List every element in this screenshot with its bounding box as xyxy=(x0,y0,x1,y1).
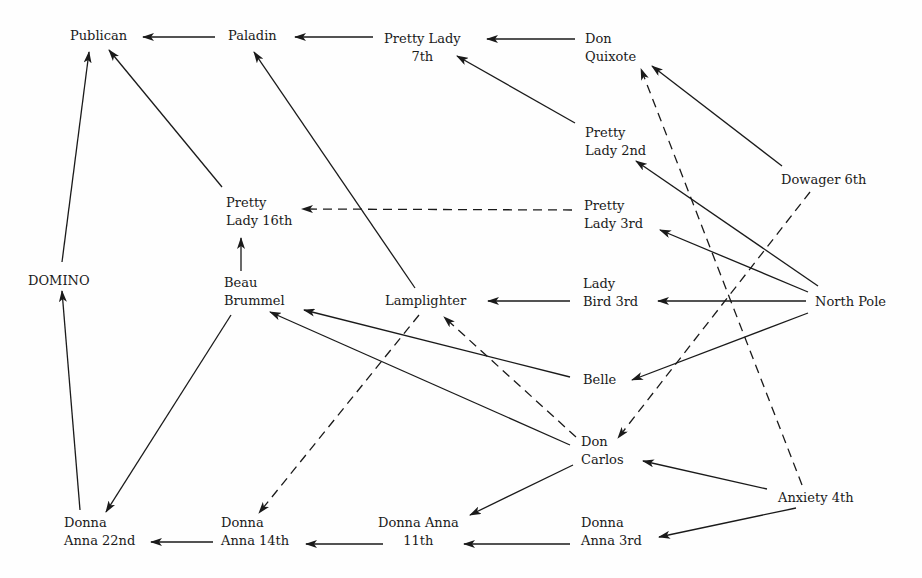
node-dowager-6th: Dowager 6th xyxy=(781,171,866,189)
node-publican: Publican xyxy=(70,27,127,45)
node-anxiety-4th: Anxiety 4th xyxy=(778,489,854,507)
node-beau-brummel: Beau Brummel xyxy=(224,274,285,310)
edge-anxiety-4th-to-donna-anna-3rd xyxy=(659,508,796,537)
node-donna-anna-22nd: Donna Anna 22nd xyxy=(64,514,135,550)
node-donna-anna-11th: Donna Anna 11th xyxy=(378,514,459,550)
node-don-quixote: Don Quixote xyxy=(585,30,636,66)
edge-don-carlos-to-beau-brummel xyxy=(270,312,570,445)
edge-north-pole-to-belle xyxy=(632,313,808,380)
node-don-carlos: Don Carlos xyxy=(581,433,624,469)
edge-anxiety-4th-to-don-carlos xyxy=(643,461,767,489)
node-domino: DOMINO xyxy=(28,272,90,290)
edge-dowager-6th-to-don-quixote xyxy=(652,66,782,166)
edge-pretty-lady-3rd-to-pretty-lady-16th xyxy=(302,209,572,210)
node-pretty-lady-7th: Pretty Lady 7th xyxy=(384,30,461,66)
edge-domino-to-publican xyxy=(62,52,89,262)
edge-donna-anna-22nd-to-domino xyxy=(62,291,80,510)
edge-anxiety-4th-to-don-quixote xyxy=(641,69,802,485)
edge-pretty-lady-2nd-to-pretty-lady-7th xyxy=(457,56,575,123)
node-pretty-lady-2nd: Pretty Lady 2nd xyxy=(585,124,646,160)
node-lamplighter: Lamplighter xyxy=(385,292,466,310)
node-belle: Belle xyxy=(583,371,616,389)
node-pretty-lady-3rd: Pretty Lady 3rd xyxy=(584,197,643,233)
pedigree-diagram: PublicanPaladinPretty Lady 7thDon Quixot… xyxy=(0,0,922,578)
edge-group xyxy=(62,37,818,544)
edge-lamplighter-to-paladin xyxy=(254,52,415,288)
edge-north-pole-to-pretty-lady-3rd xyxy=(660,230,808,292)
node-north-pole: North Pole xyxy=(815,293,886,311)
edge-pretty-lady-16th-to-publican xyxy=(109,50,222,187)
edge-lamplighter-to-donna-anna-14th xyxy=(259,315,419,513)
edge-dowager-6th-to-don-carlos xyxy=(618,192,810,438)
node-paladin: Paladin xyxy=(228,27,277,45)
edge-belle-to-beau-brummel xyxy=(304,310,570,377)
node-donna-anna-14th: Donna Anna 14th xyxy=(221,514,289,550)
node-pretty-lady-16th: Pretty Lady 16th xyxy=(226,194,292,230)
node-lady-bird-3rd: Lady Bird 3rd xyxy=(583,275,638,311)
node-donna-anna-3rd: Donna Anna 3rd xyxy=(581,514,642,550)
edge-beau-brummel-to-donna-anna-22nd xyxy=(106,315,231,512)
edge-don-carlos-to-donna-anna-11th xyxy=(470,465,573,515)
